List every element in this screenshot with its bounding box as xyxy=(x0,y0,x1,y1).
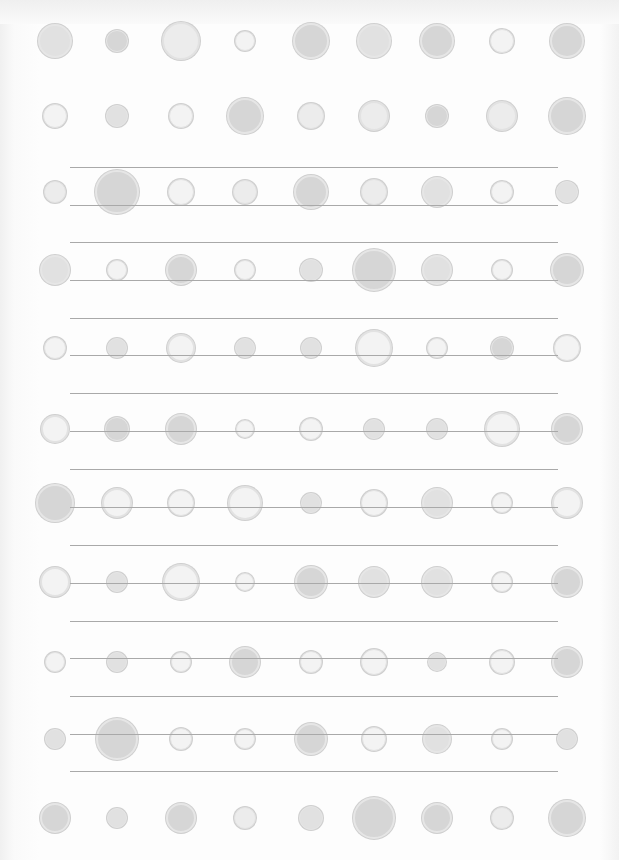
ruled-line xyxy=(70,355,558,356)
ruled-line xyxy=(70,658,558,659)
ruled-line xyxy=(70,469,558,470)
ruled-line xyxy=(70,242,558,243)
ruled-line xyxy=(70,621,558,622)
ruled-line xyxy=(70,545,558,546)
ruled-line xyxy=(70,205,558,206)
ruled-line xyxy=(70,696,558,697)
ruled-line xyxy=(70,583,558,584)
ruled-line xyxy=(70,507,558,508)
ruled-line xyxy=(70,318,558,319)
ruled-line xyxy=(70,771,558,772)
ruled-lines xyxy=(0,0,619,860)
ruled-line xyxy=(70,393,558,394)
ruled-line xyxy=(70,167,558,168)
ruled-line xyxy=(70,431,558,432)
ruled-line xyxy=(70,734,558,735)
ruled-line xyxy=(70,280,558,281)
lined-dotted-paper xyxy=(0,0,619,860)
